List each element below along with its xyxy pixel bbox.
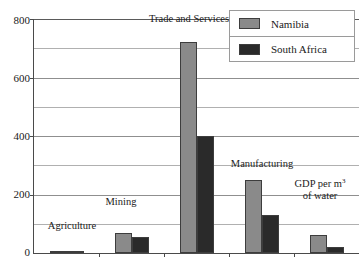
- y-axis: 800 600 400 200 0: [0, 0, 30, 266]
- gdp-label-superscript: 3: [342, 177, 346, 185]
- bar-namibia-trade-and-services: [180, 42, 197, 253]
- legend-swatch-namibia: [239, 18, 260, 29]
- legend-label-south-africa: South Africa: [271, 43, 327, 55]
- category-label-gdp-per-m3-of-water: GDP per m3of water: [278, 178, 361, 201]
- y-tick-label-800: 800: [14, 15, 31, 26]
- category-label-mining: Mining: [91, 196, 151, 208]
- bar-south-africa-mining: [132, 237, 149, 253]
- y-tick-label-0: 0: [25, 247, 31, 258]
- gdp-label-line1: GDP per m: [295, 178, 342, 189]
- bar-namibia-manufacturing: [245, 180, 262, 253]
- bar-south-africa-agriculture: [67, 251, 84, 253]
- legend-swatch-south-africa: [239, 44, 260, 55]
- legend-label-namibia: Namibia: [271, 18, 309, 30]
- gdp-label-line2: of water: [303, 190, 338, 201]
- y-tick-label-200: 200: [14, 189, 31, 200]
- bar-namibia-agriculture: [50, 251, 67, 253]
- x-tick-mark-2: [164, 253, 165, 257]
- x-tick-mark-3: [229, 253, 230, 257]
- y-tick-label-400: 400: [14, 131, 31, 142]
- x-tick-mark-1: [99, 253, 100, 257]
- category-label-trade-and-services: Trade and Services: [134, 13, 244, 25]
- legend-item-south-africa: South Africa: [230, 36, 354, 61]
- bar-namibia-gdp-per-m-of-water: [310, 235, 327, 253]
- bar-south-africa-trade-and-services: [197, 136, 214, 253]
- x-tick-mark-4: [294, 253, 295, 257]
- bar-chart: 800 600 400 200 0 Agriculture Mining Tra…: [0, 0, 361, 266]
- bar-south-africa-manufacturing: [262, 215, 279, 253]
- bar-namibia-mining: [115, 233, 132, 253]
- legend: Namibia South Africa: [229, 10, 355, 62]
- legend-item-namibia: Namibia: [230, 11, 354, 36]
- category-label-agriculture: Agriculture: [36, 220, 108, 232]
- bar-south-africa-gdp-per-m-of-water: [327, 247, 344, 253]
- category-label-manufacturing: Manufacturing: [216, 158, 308, 170]
- y-tick-label-600: 600: [14, 73, 31, 84]
